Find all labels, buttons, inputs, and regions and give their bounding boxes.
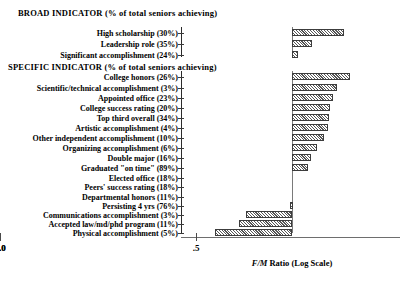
category-tick-mark (178, 197, 184, 198)
category-tick-mark (178, 98, 184, 99)
x-axis-tick-mark (0, 233, 1, 241)
bar (239, 220, 292, 227)
chart-container: BROAD INDICATOR (% of total seniors achi… (0, 0, 419, 283)
category-tick-mark (178, 138, 184, 139)
x-axis-title-italic-part: F/M (252, 258, 268, 268)
category-tick-mark (178, 128, 184, 129)
bar-row-label: Significant accomplishment (24%) (60, 50, 178, 61)
x-axis-tick-label: .5 (193, 243, 200, 253)
category-tick-mark (178, 33, 184, 34)
category-tick-mark (178, 148, 184, 149)
bar (292, 164, 308, 171)
bar-row: Significant accomplishment (24%) (0, 50, 419, 61)
bar (246, 211, 292, 218)
bar-row: Leadership role (35%) (0, 39, 419, 50)
x-axis-title: F/M Ratio (Log Scale) (252, 258, 333, 268)
category-tick-mark (178, 55, 184, 56)
category-tick-mark (178, 187, 184, 188)
plot-area: High scholarship (30%)Leadership role (3… (0, 0, 419, 283)
bar (292, 94, 333, 101)
bar-row-label: College honors (26%) (104, 72, 178, 83)
category-tick-mark (178, 206, 184, 207)
category-tick-mark (178, 118, 184, 119)
bar (292, 51, 298, 58)
bar (290, 202, 293, 209)
category-tick-mark (178, 168, 184, 169)
x-axis-tick-mark (196, 233, 197, 241)
category-tick-mark (178, 88, 184, 89)
bar (292, 73, 350, 80)
category-tick-mark (178, 158, 184, 159)
bar (292, 134, 324, 141)
x-axis-title-rest: Ratio (Log Scale) (267, 258, 332, 268)
x-axis-line (181, 237, 400, 238)
bar (292, 29, 344, 36)
x-axis-tick-label: 2.0 (0, 243, 6, 253)
bar (292, 84, 337, 91)
bar (292, 154, 311, 161)
category-tick-mark (178, 178, 184, 179)
bar-row-label: Leadership role (35%) (101, 39, 178, 50)
bar-row: College honors (26%) (0, 72, 419, 83)
category-tick-mark (178, 233, 184, 234)
bar-row: High scholarship (30%) (0, 28, 419, 39)
bar-row-label: Physical accomplishment (5%) (73, 228, 178, 239)
category-tick-mark (178, 77, 184, 78)
category-tick-mark (178, 215, 184, 216)
bar (292, 124, 328, 131)
category-tick-mark (178, 224, 184, 225)
category-tick-mark (178, 44, 184, 45)
category-tick-mark (178, 108, 184, 109)
bar (292, 104, 330, 111)
bar (292, 144, 317, 151)
bar-row-label: High scholarship (30%) (97, 28, 178, 39)
bar (292, 114, 329, 121)
bar (215, 229, 292, 236)
bar (292, 40, 312, 47)
